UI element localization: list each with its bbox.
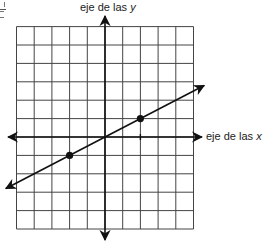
y-axis-label: eje de las y — [80, 1, 136, 13]
data-point — [66, 152, 73, 159]
coordinate-plane — [0, 0, 263, 242]
data-point — [137, 115, 144, 122]
x-axis-label: eje de las x — [206, 130, 262, 142]
